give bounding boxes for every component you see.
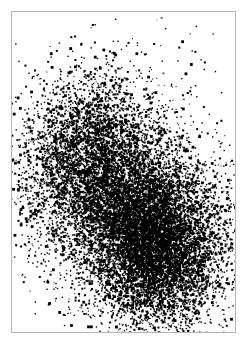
- scatter-outlier-point: [60, 154, 61, 155]
- scatter-outlier-point: [66, 181, 68, 183]
- scatter-outlier-point: [161, 17, 163, 19]
- scatter-outlier-point: [212, 33, 214, 35]
- scatter-outlier-point: [51, 195, 53, 197]
- scatter-outlier-point: [25, 121, 26, 122]
- scatter-outlier-point: [158, 84, 160, 86]
- scatter-outlier-layer: [12, 12, 235, 332]
- scatter-outlier-point: [156, 20, 157, 21]
- scatter-outlier-point: [220, 165, 222, 167]
- scatter-outlier-point: [226, 239, 227, 240]
- scatter-outlier-point: [115, 189, 117, 191]
- scatter-outlier-point: [32, 245, 34, 247]
- scatter-outlier-point: [55, 298, 56, 299]
- scatter-outlier-point: [118, 300, 119, 301]
- scatter-outlier-point: [164, 85, 165, 86]
- scatter-outlier-point: [210, 203, 212, 205]
- scatter-outlier-point: [138, 177, 139, 178]
- scatter-outlier-point: [36, 219, 37, 220]
- scatter-figure: [0, 0, 247, 346]
- scatter-outlier-point: [59, 42, 61, 44]
- scatter-outlier-point: [81, 241, 83, 243]
- scatter-outlier-point: [180, 231, 182, 233]
- scatter-outlier-point: [223, 331, 224, 332]
- scatter-outlier-point: [106, 249, 108, 251]
- plot-frame-border: [11, 11, 236, 333]
- scatter-outlier-point: [162, 72, 164, 74]
- scatter-outlier-point: [166, 267, 167, 268]
- scatter-outlier-point: [230, 188, 231, 189]
